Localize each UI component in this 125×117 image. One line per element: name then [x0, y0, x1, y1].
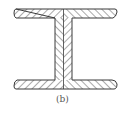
bottom-flange: [14, 80, 117, 89]
figure-label: (b): [0, 94, 125, 104]
top-flange: [14, 9, 117, 18]
web: [55, 9, 72, 89]
